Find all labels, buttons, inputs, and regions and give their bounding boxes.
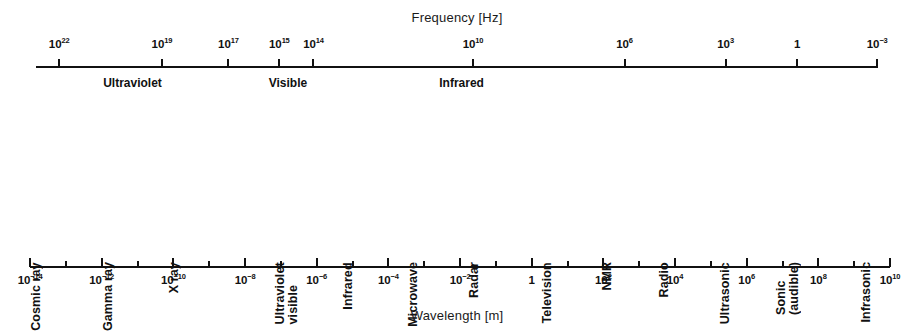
wavelength-axis-minor-tick <box>710 261 712 267</box>
wavelength-axis-tick <box>459 258 461 267</box>
spectrum-region-label-line2: (audible) <box>788 262 801 315</box>
wavelength-axis-minor-tick <box>280 261 282 267</box>
spectrum-region-label: Sonic(audible) <box>774 262 800 315</box>
electromagnetic-spectrum-figure: Frequency [Hz] 1022101910171015101410101… <box>0 0 914 334</box>
wavelength-tick-label: 10−4 <box>378 274 399 286</box>
wavelength-tick-label: 104 <box>667 274 684 286</box>
wavelength-axis-tick <box>674 258 676 267</box>
wavelength-tick-label: 108 <box>810 274 827 286</box>
wavelength-axis-minor-tick <box>567 261 569 267</box>
wavelength-axis-tick <box>101 258 103 267</box>
wavelength-axis-minor-tick <box>423 261 425 267</box>
spectrum-region-label: Infrared <box>342 262 355 309</box>
wavelength-axis-title: Wavelength [m] <box>411 308 504 323</box>
wavelength-axis-minor-tick <box>853 261 855 267</box>
frequency-band-label: Ultraviolet <box>103 76 162 90</box>
wavelength-tick-label: 10−2 <box>450 274 471 286</box>
wavelength-axis-tick <box>602 258 604 267</box>
wavelength-axis-tick <box>746 258 748 267</box>
wavelength-axis-minor-tick <box>638 261 640 267</box>
wavelength-axis-tick <box>817 258 819 267</box>
wavelength-axis-tick <box>316 258 318 267</box>
wavelength-tick-label: 10−8 <box>235 274 256 286</box>
frequency-tick-label: 106 <box>616 38 633 50</box>
frequency-axis-tick <box>472 59 474 68</box>
wavelength-axis-tick <box>387 258 389 267</box>
wavelength-tick-label: 102 <box>595 274 612 286</box>
spectrum-region-label: Ultrasonic <box>719 262 732 324</box>
frequency-tick-label: 1015 <box>269 38 290 50</box>
spectrum-region-label-line1: Ultrasonic <box>718 262 732 324</box>
frequency-tick-label: 1019 <box>152 38 173 50</box>
spectrum-region-label-line1: Infrared <box>341 262 355 309</box>
spectrum-region-label-line1: Television <box>540 262 554 323</box>
wavelength-axis-minor-tick <box>208 261 210 267</box>
frequency-tick-label: 1 <box>794 38 800 50</box>
frequency-axis-tick <box>876 59 878 68</box>
frequency-axis-tick <box>725 59 727 68</box>
frequency-band-label: Visible <box>269 76 307 90</box>
frequency-axis-tick <box>58 59 60 68</box>
wavelength-tick-label: 106 <box>738 274 755 286</box>
spectrum-region-label-line2: visible <box>287 262 300 324</box>
wavelength-axis-tick <box>244 258 246 267</box>
frequency-axis-tick <box>624 59 626 68</box>
wavelength-axis-minor-tick <box>782 261 784 267</box>
wavelength-axis-minor-tick <box>495 261 497 267</box>
spectrum-region-label: Infrasonic <box>860 262 873 323</box>
spectrum-region-label: Ultravioletvisible <box>274 262 300 324</box>
spectrum-region-label-line1: Sonic <box>773 280 787 315</box>
wavelength-axis-tick <box>889 258 891 267</box>
wavelength-tick-label: 10−6 <box>306 274 327 286</box>
frequency-tick-label: 1014 <box>303 38 324 50</box>
frequency-tick-label: 1022 <box>49 38 70 50</box>
frequency-tick-label: 1010 <box>463 38 484 50</box>
wavelength-axis-minor-tick <box>65 261 67 267</box>
wavelength-axis-minor-tick <box>137 261 139 267</box>
spectrum-region-label-line1: Infrasonic <box>859 262 873 323</box>
wavelength-axis-tick <box>172 258 174 267</box>
wavelength-tick-label: 10−10 <box>161 274 186 286</box>
frequency-tick-label: 1017 <box>218 38 239 50</box>
frequency-tick-label: 103 <box>717 38 734 50</box>
wavelength-axis-tick <box>531 258 533 267</box>
wavelength-tick-label: 10−12 <box>89 274 114 286</box>
spectrum-region-label: Television <box>541 262 554 323</box>
frequency-tick-label: 10−3 <box>867 38 888 50</box>
frequency-axis-tick <box>312 59 314 68</box>
frequency-axis-tick <box>796 59 798 68</box>
spectrum-region-label-line1: Ultraviolet <box>273 262 287 324</box>
frequency-axis-tick <box>161 59 163 68</box>
frequency-axis-title: Frequency [Hz] <box>412 10 503 25</box>
wavelength-tick-label: 10−14 <box>18 274 43 286</box>
frequency-axis-tick <box>227 59 229 68</box>
wavelength-tick-label: 1 <box>529 274 535 286</box>
wavelength-axis-minor-tick <box>352 261 354 267</box>
frequency-band-label: Infrared <box>439 76 484 90</box>
frequency-axis-tick <box>278 59 280 68</box>
wavelength-axis-tick <box>29 258 31 267</box>
wavelength-tick-label: 1010 <box>880 274 901 286</box>
